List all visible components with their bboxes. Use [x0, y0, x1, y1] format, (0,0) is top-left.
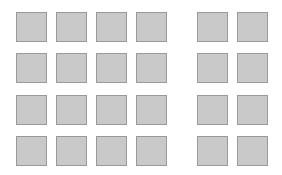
right-group-square — [197, 136, 228, 166]
right-group-square — [237, 95, 268, 125]
left-group-square — [16, 95, 47, 125]
left-group-square — [56, 95, 87, 125]
left-group-square — [56, 136, 87, 166]
left-group-square — [16, 53, 47, 83]
left-group-square — [16, 136, 47, 166]
left-group-square — [136, 136, 167, 166]
left-group-square — [136, 95, 167, 125]
square-grid — [0, 0, 282, 175]
left-group-square — [56, 53, 87, 83]
left-group-square — [96, 12, 127, 42]
left-group-square — [96, 136, 127, 166]
left-group-square — [56, 12, 87, 42]
right-group-square — [197, 53, 228, 83]
left-group-square — [96, 95, 127, 125]
left-group-square — [136, 53, 167, 83]
left-group-square — [16, 12, 47, 42]
right-group-square — [237, 136, 268, 166]
right-group-square — [197, 95, 228, 125]
right-group-square — [237, 53, 268, 83]
left-group-square — [136, 12, 167, 42]
right-group-square — [237, 12, 268, 42]
left-group-square — [96, 53, 127, 83]
right-group-square — [197, 12, 228, 42]
